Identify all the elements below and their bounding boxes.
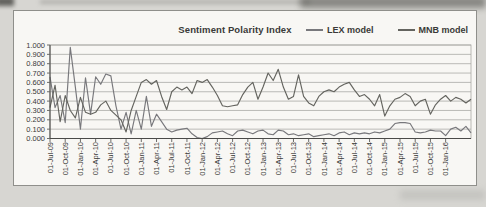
x-tick-label: 01-Apr-14 [335, 142, 344, 175]
x-tick-label: 01-Jul-09 [46, 142, 55, 173]
y-tick-label: 0.000 [26, 134, 45, 143]
x-tick-label: 01-Jan-16 [441, 142, 450, 176]
y-tick-label: 0.400 [26, 97, 45, 106]
x-tick-label: 01-Jan-13 [259, 142, 268, 176]
scan-artifact-top-strip [40, 0, 310, 4]
x-tick-label: 01-Oct-14 [365, 142, 374, 175]
y-tick-label: 0.500 [26, 87, 45, 96]
x-tick-label: 01-Oct-13 [304, 142, 313, 175]
y-tick-label: 0.800 [26, 59, 45, 68]
x-tick-label: 01-Jan-14 [320, 142, 329, 176]
scan-artifact-top-left-blob [0, 0, 14, 6]
y-tick-label: 0.100 [26, 125, 45, 134]
x-tick-label: 01-Oct-09 [61, 142, 70, 175]
scan-artifact-bottom-smudge [400, 190, 485, 200]
x-tick-label: 01-Apr-15 [396, 142, 405, 175]
x-tick-label: 01-Jan-15 [380, 142, 389, 176]
y-tick-label: 0.200 [26, 115, 45, 124]
plot-area: 1.0000.9000.8000.7000.6000.5000.4000.300… [14, 11, 476, 185]
x-tick-label: 01-Oct-15 [426, 142, 435, 175]
x-tick-label: 01-Oct-12 [243, 142, 252, 175]
x-tick-label: 01-Apr-10 [91, 142, 100, 175]
x-tick-label: 01-Jan-12 [198, 142, 207, 176]
scan-artifact-top-right-smear [300, 0, 486, 8]
x-tick-label: 01-Jul-15 [411, 142, 420, 173]
y-tick-label: 0.600 [26, 78, 45, 87]
x-tick-label: 01-Jul-11 [167, 142, 176, 173]
x-tick-label: 01-Apr-12 [213, 142, 222, 175]
y-tick-label: 0.300 [26, 106, 45, 115]
y-tick-label: 0.900 [26, 50, 45, 59]
x-tick-label: 01-Jan-11 [137, 142, 146, 175]
y-tick-label: 1.000 [26, 41, 45, 50]
x-tick-label: 01-Oct-10 [122, 142, 131, 175]
x-tick-label: 01-Apr-11 [152, 142, 161, 175]
x-tick-label: 01-Jul-12 [228, 142, 237, 173]
y-tick-label: 0.700 [26, 69, 45, 78]
chart-frame: Sentiment Polarity Index LEX model MNB m… [13, 10, 477, 186]
x-tick-label: 01-Jan-10 [76, 142, 85, 176]
x-tick-label: 01-Oct-11 [183, 142, 192, 175]
x-tick-label: 01-Jul-10 [106, 142, 115, 173]
x-tick-label: 01-Jul-14 [350, 142, 359, 173]
x-tick-label: 01-Jul-13 [289, 142, 298, 173]
x-tick-label: 01-Apr-13 [274, 142, 283, 175]
